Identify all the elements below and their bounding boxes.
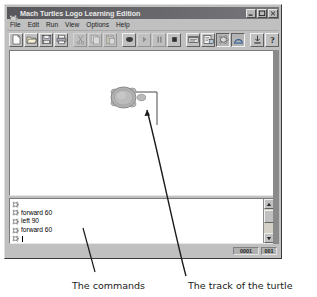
turtle-prompt-icon	[12, 201, 19, 208]
list-item[interactable]: left 90	[10, 217, 263, 226]
procedures-button[interactable]	[201, 33, 215, 47]
print-button[interactable]	[54, 33, 68, 47]
save-button[interactable]	[39, 33, 53, 47]
drawing-canvas[interactable]	[9, 50, 275, 196]
menu-item-help[interactable]: Help	[113, 20, 134, 30]
run-button[interactable]	[122, 33, 136, 47]
window-title: Mach Turtles Logo Learning Edition	[20, 9, 245, 18]
turtle-icon	[9, 9, 18, 18]
window-gutter	[273, 50, 279, 244]
menu-item-options[interactable]: Options	[83, 20, 113, 30]
pause-button[interactable]	[152, 33, 166, 47]
annotation-commands: The commands	[72, 280, 145, 291]
editor-button[interactable]	[186, 33, 200, 47]
menu-item-view[interactable]: View	[62, 20, 83, 30]
list-item[interactable]	[10, 234, 263, 243]
pen-button[interactable]	[231, 33, 245, 47]
help-button[interactable]: ?	[265, 33, 279, 47]
status-coordinates: 0001	[233, 247, 259, 255]
open-button[interactable]	[24, 33, 38, 47]
console-line-text: forward 60	[21, 226, 52, 235]
menu-bar: File Edit Run View Options Help	[7, 20, 279, 31]
svg-text:?: ?	[270, 35, 275, 45]
minimize-button[interactable]	[246, 9, 256, 18]
menu-item-file[interactable]: File	[7, 20, 25, 30]
command-console[interactable]: forward 60 left 90	[9, 198, 275, 244]
turtle-prompt-icon	[12, 235, 19, 242]
turtle-prompt-icon	[12, 209, 19, 216]
menu-item-run[interactable]: Run	[43, 20, 62, 30]
turtle-prompt-icon	[12, 227, 19, 234]
console-line-text: left 90	[21, 217, 39, 226]
download-button[interactable]	[250, 33, 264, 47]
list-item[interactable]: forward 60	[10, 226, 263, 235]
status-indicator: 001	[261, 247, 277, 255]
close-button[interactable]	[268, 9, 278, 18]
maximize-button[interactable]	[257, 9, 267, 18]
stop-button[interactable]	[167, 33, 181, 47]
new-button[interactable]	[9, 33, 23, 47]
paste-button[interactable]	[103, 33, 117, 47]
list-item[interactable]: forward 60	[10, 209, 263, 218]
turtle-sprite	[111, 87, 146, 108]
status-bar: 0001 001	[7, 246, 279, 256]
turtle-prompt-icon	[12, 218, 19, 225]
toolbar: ?	[7, 31, 279, 48]
step-button[interactable]	[137, 33, 151, 47]
console-line-text: forward 60	[21, 209, 52, 218]
application-window: Mach Turtles Logo Learning Edition File …	[4, 4, 282, 259]
list-item[interactable]	[10, 200, 263, 209]
title-bar[interactable]: Mach Turtles Logo Learning Edition	[7, 7, 279, 19]
text-caret	[22, 236, 23, 242]
menu-item-edit[interactable]: Edit	[25, 20, 43, 30]
annotation-track: The track of the turtle	[188, 280, 293, 291]
console-line-list: forward 60 left 90	[10, 199, 263, 243]
cut-button[interactable]	[73, 33, 87, 47]
turtle-button[interactable]	[216, 33, 230, 47]
copy-button[interactable]	[88, 33, 102, 47]
